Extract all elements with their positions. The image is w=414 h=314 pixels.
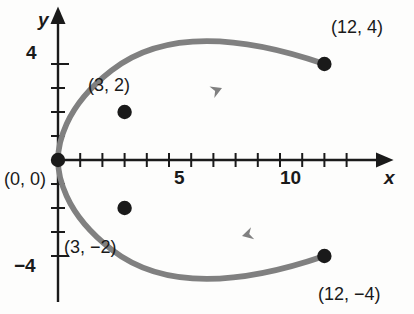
y-tick-label-minus-4: −4 (14, 256, 36, 275)
point-label-upper-mid: (3, 2) (88, 76, 130, 94)
parabola-upper-branch (58, 41, 324, 160)
x-axis-label: x (384, 168, 395, 187)
point-origin (51, 153, 65, 167)
x-tick-label-5: 5 (174, 168, 185, 187)
point-label-origin: (0, 0) (4, 170, 46, 188)
x-tick-label-10: 10 (280, 168, 301, 187)
y-axis-label: y (38, 10, 49, 29)
point-label-lower-mid: (3, −2) (64, 238, 117, 256)
point-label-upper-end: (12, 4) (331, 18, 383, 36)
parabola-figure: y x 4 −4 5 10 (0, 0) (3, 2) (12, 4) (3, … (0, 0, 414, 314)
plot-canvas (0, 0, 414, 314)
point-lower-mid (117, 201, 131, 215)
point-lower-end (317, 249, 331, 263)
point-label-lower-end: (12, −4) (318, 285, 381, 303)
lower-direction-arrow-icon (240, 227, 254, 242)
point-upper-mid (117, 105, 131, 119)
point-upper-end (317, 57, 331, 71)
upper-direction-arrow-icon (209, 82, 224, 98)
y-tick-label-4: 4 (26, 43, 37, 62)
